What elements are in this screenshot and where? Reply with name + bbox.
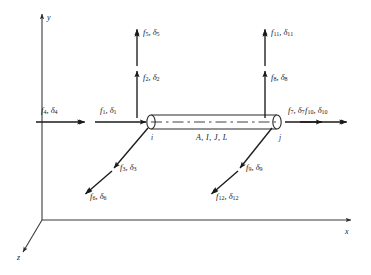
dof-label-12: f12, δ12 xyxy=(216,192,239,201)
dof-label-6: f6, δ6 xyxy=(90,192,107,201)
y-axis-label: y xyxy=(47,14,51,22)
dof-label-8: f8, δ8 xyxy=(271,73,288,82)
coordinate-axes xyxy=(23,14,351,252)
dof-label-9: f9, δ9 xyxy=(246,163,263,172)
beam-body xyxy=(147,115,281,129)
beam-property-label: A, I, J, L xyxy=(196,134,228,142)
dof-label-5: f5, δ5 xyxy=(143,28,160,37)
dof-label-1: f1, δ1 xyxy=(100,106,117,115)
x-axis-label: x xyxy=(345,228,349,236)
figure-canvas: yxzA, I, J, Lijf1, δ1f2, δ2f3, δ3f4, δ4f… xyxy=(0,0,371,275)
z-axis xyxy=(23,220,42,252)
node-label-j: j xyxy=(279,134,281,142)
node-label-i: i xyxy=(151,134,153,142)
dof-label-10: f10, δ10 xyxy=(305,106,328,115)
dof-label-2: f2, δ2 xyxy=(143,73,160,82)
z-axis-label: z xyxy=(17,254,20,262)
dof-label-11: f11, δ11 xyxy=(271,28,293,37)
dof-label-4: f4, δ4 xyxy=(41,106,58,115)
diagram-svg xyxy=(0,0,371,275)
dof-label-7: f7, δ7 xyxy=(288,106,305,115)
dof-label-3: f3, δ3 xyxy=(120,163,137,172)
